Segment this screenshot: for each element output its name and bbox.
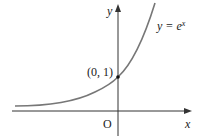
x-axis — [12, 108, 192, 114]
y-axis-arrow-icon — [115, 4, 121, 12]
origin-label: O — [103, 117, 112, 131]
function-label: y = ex — [156, 19, 186, 33]
exponential-graph: y x O (0, 1) y = ex — [0, 0, 203, 138]
intercept-point — [116, 75, 120, 79]
x-axis-label: x — [184, 117, 191, 131]
y-axis — [115, 4, 121, 136]
y-axis-label: y — [106, 4, 113, 18]
point-label: (0, 1) — [87, 65, 113, 79]
x-axis-arrow-icon — [184, 108, 192, 114]
exponential-curve — [15, 3, 155, 106]
